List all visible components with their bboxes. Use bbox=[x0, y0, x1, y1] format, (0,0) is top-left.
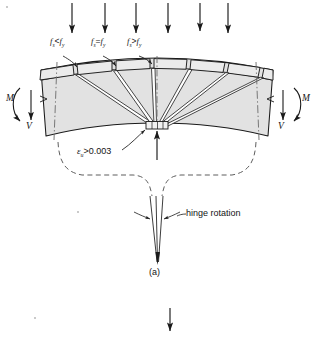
moment-arrow-right bbox=[294, 88, 301, 121]
scan-speck-1 bbox=[77, 211, 79, 213]
beam-segment-4 bbox=[154, 59, 187, 70]
beam-segment-7 bbox=[262, 68, 273, 80]
shear-label-left: V bbox=[26, 122, 32, 132]
moment-label-left: M bbox=[6, 94, 14, 104]
stress-label-center: fs=fy bbox=[91, 37, 105, 48]
hinge-leader-label bbox=[177, 214, 186, 216]
hinge-rotation-label: hinge rotation bbox=[186, 209, 241, 218]
hinge-rotation-leaders bbox=[134, 212, 186, 219]
crush-zone-box bbox=[146, 122, 168, 130]
moment-label-right: M bbox=[302, 94, 310, 104]
strain-label: εu>0.003 bbox=[77, 147, 111, 159]
beam-plastic-hinge-figure bbox=[0, 0, 315, 338]
hinge-leader-left bbox=[134, 212, 150, 219]
stress-label-left-sub2: y bbox=[62, 42, 65, 48]
left-end-forces bbox=[13, 88, 31, 121]
hinge-rotation-wedge bbox=[150, 196, 163, 265]
shear-label-right: V bbox=[278, 122, 284, 132]
strain-leader-arrow bbox=[122, 130, 145, 150]
crush-zone bbox=[146, 122, 168, 130]
scan-speck-3 bbox=[6, 6, 8, 8]
scan-speck-2 bbox=[34, 317, 36, 319]
figure-caption: (a) bbox=[149, 268, 160, 277]
strain-value: 0.003 bbox=[89, 146, 112, 156]
stress-label-right: fs>fy bbox=[127, 37, 141, 48]
right-end-forces bbox=[283, 88, 301, 121]
hinge-wedge-tip bbox=[156, 252, 161, 265]
beam-segment-3 bbox=[116, 59, 150, 71]
stress-label-right-sub2: y bbox=[139, 42, 142, 48]
load-arrows-group bbox=[72, 3, 228, 33]
stress-label-center-sub2: y bbox=[103, 42, 106, 48]
moment-arrow-left bbox=[13, 88, 20, 121]
hinge-dashed-right bbox=[162, 142, 256, 196]
stress-label-left: fs<fy bbox=[50, 37, 64, 48]
